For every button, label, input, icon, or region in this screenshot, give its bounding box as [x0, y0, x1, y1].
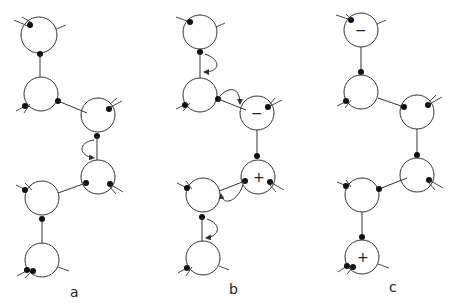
negative-charge-sign: − [355, 22, 367, 38]
panel-c: − + c [336, 13, 443, 295]
diagram-canvas: a − + [0, 0, 455, 305]
panel-label-a: a [70, 284, 79, 300]
panel-label-b: b [229, 281, 238, 297]
curved-arrow-icon [221, 185, 243, 201]
curved-arrow-icon [206, 219, 217, 238]
electron-dot [27, 22, 33, 28]
positive-charge-sign: + [357, 249, 369, 265]
panel-a: a [14, 17, 123, 300]
unit-circle [21, 17, 57, 53]
curved-arrow-icon [220, 90, 240, 104]
curved-arrow-icon [82, 140, 94, 158]
curved-arrow-icon [204, 54, 217, 72]
panel-b: − + b [176, 15, 284, 297]
negative-charge-sign: − [251, 105, 263, 121]
panel-label-c: c [389, 279, 397, 295]
positive-charge-sign: + [253, 169, 265, 185]
